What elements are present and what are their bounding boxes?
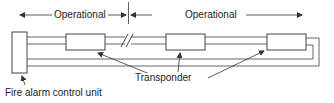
operational-label-left: Operational	[52, 10, 108, 20]
transponder-2-box	[166, 34, 205, 50]
transponder-3-box	[267, 34, 306, 50]
control-unit-box	[12, 32, 27, 73]
control-unit-label: Fire alarm control unit	[3, 88, 104, 98]
transponder-1-box	[66, 34, 105, 50]
break-mark	[121, 34, 133, 47]
transponder-label: Transponder	[133, 73, 193, 83]
operational-label-right: Operational	[183, 10, 239, 20]
fire-alarm-loop-diagram: Operational Operational Transponder Fire…	[0, 0, 334, 103]
